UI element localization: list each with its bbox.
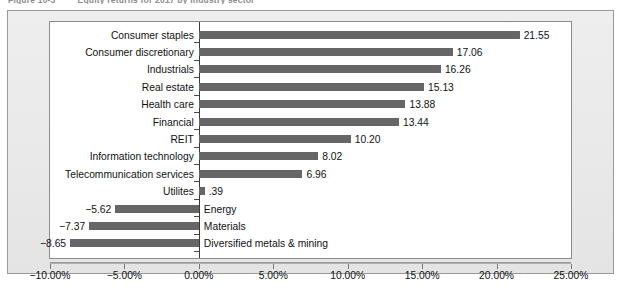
value-label: .39	[209, 186, 223, 197]
bar-row: Diversified metals & mining−8.65	[50, 235, 571, 252]
category-label: REIT	[52, 133, 194, 144]
x-axis-tick	[50, 264, 51, 269]
bar-row: Materials−7.37	[50, 217, 571, 234]
value-label: 21.55	[524, 29, 550, 40]
x-axis-tick	[571, 264, 572, 269]
category-label: Information technology	[52, 151, 194, 162]
figure-panel: Consumer staples21.55Consumer discretion…	[7, 10, 614, 274]
value-label: 13.44	[403, 116, 429, 127]
bar-row: Real estate15.13	[50, 78, 571, 95]
bar[interactable]	[89, 222, 199, 230]
category-label: Consumer staples	[52, 29, 194, 40]
category-label: Consumer discretionary	[52, 47, 194, 58]
value-label: −7.37	[59, 220, 85, 231]
value-label: 15.13	[428, 81, 454, 92]
bar[interactable]	[199, 118, 399, 126]
x-axis-tick	[497, 264, 498, 269]
bar[interactable]	[199, 48, 453, 56]
category-label: Telecommunication services	[52, 168, 194, 179]
bar-row: Utilites.39	[50, 182, 571, 199]
value-label: 16.26	[445, 64, 471, 75]
figure-caption: Figure 10-3Equity returns for 2017 by in…	[8, 0, 255, 4]
bar[interactable]	[199, 65, 441, 73]
x-axis-tick	[199, 264, 200, 269]
x-axis-label: 5.00%	[259, 270, 288, 281]
value-label: 17.06	[457, 47, 483, 58]
figure-number: Figure 10-3	[8, 0, 56, 4]
category-label: Financial	[52, 116, 194, 127]
bar[interactable]	[199, 152, 318, 160]
value-label: −8.65	[40, 238, 66, 249]
x-axis-tick	[273, 264, 274, 269]
bar[interactable]	[199, 170, 303, 178]
bar[interactable]	[199, 100, 406, 108]
bar-row: Financial13.44	[50, 113, 571, 130]
x-axis-label: 20.00%	[479, 270, 514, 281]
bar[interactable]	[115, 205, 199, 213]
x-axis-label: 0.00%	[184, 270, 213, 281]
category-label: Materials	[204, 220, 246, 231]
bar-row: Information technology8.02	[50, 148, 571, 165]
bar-row: Consumer discretionary17.06	[50, 43, 571, 60]
value-label: 8.02	[322, 151, 342, 162]
x-axis-label: 10.00%	[330, 270, 365, 281]
bar[interactable]	[199, 83, 424, 91]
bar-row: Industrials16.26	[50, 61, 571, 78]
bar[interactable]	[199, 31, 520, 39]
bar-row: Telecommunication services6.96	[50, 165, 571, 182]
bar-row: Energy−5.62	[50, 200, 571, 217]
category-label: Diversified metals & mining	[204, 238, 328, 249]
x-axis-tick	[124, 264, 125, 269]
plot-area: Consumer staples21.55Consumer discretion…	[49, 21, 572, 259]
x-axis-label: 15.00%	[405, 270, 440, 281]
x-axis-tick	[422, 264, 423, 269]
figure-caption-text: Equity returns for 2017 by industry sect…	[78, 0, 255, 4]
bar-row: Consumer staples21.55	[50, 26, 571, 43]
bar[interactable]	[70, 239, 199, 247]
x-axis-label: −10.00%	[30, 270, 71, 281]
value-label: 13.88	[409, 99, 435, 110]
category-label: Health care	[52, 99, 194, 110]
category-label: Energy	[204, 203, 237, 214]
plot-inner: Consumer staples21.55Consumer discretion…	[50, 22, 571, 258]
bar-row: REIT10.20	[50, 130, 571, 147]
category-label: Real estate	[52, 81, 194, 92]
x-axis-label: −5.00%	[107, 270, 142, 281]
axis-tick	[194, 251, 199, 252]
bar[interactable]	[199, 187, 205, 195]
value-label: −5.62	[85, 203, 111, 214]
bar[interactable]	[199, 135, 351, 143]
category-label: Industrials	[52, 64, 194, 75]
x-axis-line	[50, 262, 571, 264]
value-label: 10.20	[355, 133, 381, 144]
x-axis-label: 25.00%	[554, 270, 589, 281]
x-axis-tick	[348, 264, 349, 269]
value-label: 6.96	[306, 168, 326, 179]
category-label: Utilites	[52, 186, 194, 197]
bar-row: Health care13.88	[50, 96, 571, 113]
